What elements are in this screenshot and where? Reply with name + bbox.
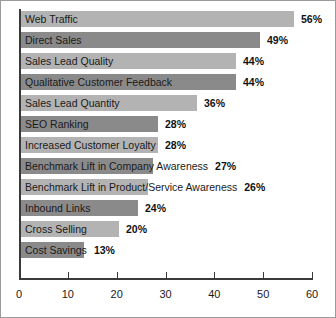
bar-value-label: 28% <box>165 137 186 153</box>
bar-chart: Web Traffic56%Direct Sales49%Sales Lead … <box>0 0 336 318</box>
bar-value-label: 36% <box>204 95 225 111</box>
x-axis-tick-mark <box>263 272 264 279</box>
x-axis-tick-label: 0 <box>4 288 34 300</box>
bar-value-label: 27% <box>215 158 236 174</box>
bar-category-label: Cost Savings <box>25 242 87 258</box>
bar-value-label: 26% <box>244 179 265 195</box>
bar-category-label: Increased Customer Loyalty <box>25 137 156 153</box>
x-axis-tick-mark <box>312 272 313 279</box>
x-axis-tick-mark <box>19 272 20 279</box>
x-axis-tick-label: 30 <box>151 288 181 300</box>
x-axis-tick-mark <box>166 272 167 279</box>
x-axis-tick-mark <box>117 272 118 279</box>
bar-category-label: Web Traffic <box>25 11 78 27</box>
bar-category-label: Benchmark Lift in Company Awareness <box>25 158 208 174</box>
x-axis-tick-label: 40 <box>199 288 229 300</box>
x-axis-tick-mark <box>68 272 69 279</box>
bar-category-label: Benchmark Lift in Product/Service Awaren… <box>25 179 237 195</box>
bar-value-label: 24% <box>145 200 166 216</box>
x-axis-tick-label: 50 <box>248 288 278 300</box>
bar-value-label: 13% <box>94 242 115 258</box>
bar-category-label: Qualitative Customer Feedback <box>25 74 172 90</box>
bar-category-label: Sales Lead Quality <box>25 53 113 69</box>
bar-value-label: 44% <box>243 74 264 90</box>
bar-value-label: 44% <box>243 53 264 69</box>
bar-value-label: 49% <box>267 32 288 48</box>
x-axis-tick-label: 60 <box>297 288 327 300</box>
x-axis-tick-label: 20 <box>102 288 132 300</box>
bar-value-label: 56% <box>301 11 322 27</box>
bar-category-label: Sales Lead Quantity <box>25 95 120 111</box>
bar-category-label: Inbound Links <box>25 200 90 216</box>
bar-category-label: Direct Sales <box>25 32 82 48</box>
bar-category-label: SEO Ranking <box>25 116 89 132</box>
x-axis-tick-label: 10 <box>53 288 83 300</box>
bar-category-label: Cross Selling <box>25 221 87 237</box>
plot-area: Web Traffic56%Direct Sales49%Sales Lead … <box>1 1 336 318</box>
bar-value-label: 28% <box>165 116 186 132</box>
bar-value-label: 20% <box>126 221 147 237</box>
y-axis-line <box>19 9 21 279</box>
x-axis-tick-mark <box>214 272 215 279</box>
